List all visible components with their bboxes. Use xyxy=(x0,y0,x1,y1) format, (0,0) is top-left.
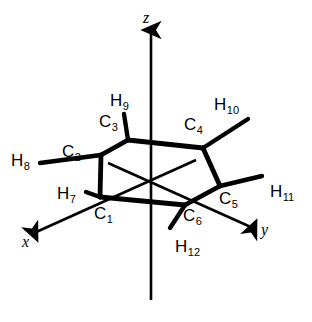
atom-index-subscript: 12 xyxy=(188,246,200,258)
bond-C4-H10 xyxy=(203,119,248,148)
atom-element-symbol: H xyxy=(110,91,122,110)
bond-C3-H9 xyxy=(124,114,128,140)
atom-index-subscript: 2 xyxy=(75,151,81,163)
atom-label-h9: H9 xyxy=(110,92,128,109)
axes-layer xyxy=(34,30,253,300)
bond-C4-C5 xyxy=(203,148,220,186)
atom-label-c4: C4 xyxy=(184,116,202,133)
atom-index-subscript: 8 xyxy=(24,160,30,172)
atom-index-subscript: 10 xyxy=(227,104,239,116)
axis-label-x: x xyxy=(22,234,29,250)
atom-index-subscript: 6 xyxy=(196,215,202,227)
atom-label-h7: H7 xyxy=(57,185,75,202)
axis-label-z: z xyxy=(143,10,149,26)
bond-C6-C1 xyxy=(100,197,185,205)
atom-element-symbol: H xyxy=(214,95,226,114)
atom-element-symbol: C xyxy=(99,112,111,131)
atom-label-c1: C1 xyxy=(94,205,112,222)
atom-label-c6: C6 xyxy=(183,207,201,224)
structure-drawing xyxy=(0,0,312,322)
atom-label-c5: C5 xyxy=(219,190,237,207)
atom-element-symbol: C xyxy=(62,142,74,161)
bond-C5-C6 xyxy=(185,186,220,205)
atom-index-subscript: 7 xyxy=(70,193,76,205)
axis-label-y: y xyxy=(261,222,268,238)
atom-element-symbol: C xyxy=(94,204,106,223)
atom-element-symbol: C xyxy=(184,115,196,134)
atom-index-subscript: 9 xyxy=(123,100,129,112)
atom-element-symbol: H xyxy=(57,184,69,203)
atom-label-c3: C3 xyxy=(99,113,117,130)
bond-C2-C3 xyxy=(101,140,128,155)
bond-C5-H11 xyxy=(220,176,262,186)
atom-index-subscript: 5 xyxy=(232,198,238,210)
atom-label-h11: H11 xyxy=(270,183,294,200)
atom-index-subscript: 3 xyxy=(112,121,118,133)
atom-element-symbol: C xyxy=(183,206,195,225)
atom-element-symbol: H xyxy=(175,237,187,256)
atom-index-subscript: 11 xyxy=(283,191,294,203)
atom-label-c2: C2 xyxy=(62,143,80,160)
bond-C1-C2 xyxy=(100,155,101,197)
atom-label-h10: H10 xyxy=(214,96,239,113)
atom-label-h8: H8 xyxy=(11,152,29,169)
atom-element-symbol: H xyxy=(11,151,23,170)
atom-label-h12: H12 xyxy=(175,238,200,255)
atom-element-symbol: H xyxy=(270,182,282,201)
atom-element-symbol: C xyxy=(219,189,231,208)
molecular-structure-figure: C1C2C3C4C5C6H7H8H9H10H11H12zxy xyxy=(0,0,312,322)
bond-C3-C4 xyxy=(128,140,203,148)
atom-index-subscript: 4 xyxy=(197,124,203,136)
atom-index-subscript: 1 xyxy=(107,213,113,225)
